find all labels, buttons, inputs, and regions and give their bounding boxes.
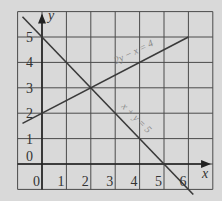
y-tick-label: 4: [26, 55, 33, 70]
x-tick-label: 3: [106, 174, 113, 189]
x-tick-label: 0: [33, 174, 40, 189]
y-axis-arrow-icon: [38, 14, 46, 24]
equation-label-1: 2y − x = 4: [112, 37, 155, 65]
x-axis-label: x: [201, 166, 209, 181]
x-tick-label: 2: [82, 174, 89, 189]
y-axis-label: y: [46, 8, 55, 23]
x-tick-label: 5: [155, 174, 162, 189]
data-lines: [22, 17, 193, 195]
line-graph: 0123456012345 y x 2y − x = 4 x + y = 5: [0, 0, 222, 201]
equation-label-2: x + y = 5: [119, 100, 154, 135]
y-tick-label: 3: [26, 81, 33, 96]
y-tick-label: 0: [26, 149, 33, 164]
y-tick-label: 2: [26, 106, 33, 121]
x-tick-label: 1: [57, 174, 64, 189]
x-tick-label: 6: [179, 174, 186, 189]
grid: [18, 12, 213, 190]
series-line-2: [22, 17, 193, 195]
y-tick-label: 5: [26, 30, 33, 45]
x-tick-label: 4: [131, 174, 138, 189]
y-tick-label: 1: [26, 132, 33, 147]
